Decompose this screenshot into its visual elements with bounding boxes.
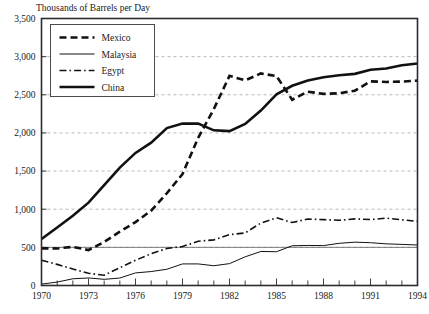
y-axis-label: 2,000 bbox=[14, 128, 36, 138]
chart-title-group: Thousands of Barrels per Day bbox=[36, 3, 150, 13]
legend-label-malaysia: Malaysia bbox=[102, 50, 138, 60]
chart-title: Thousands of Barrels per Day bbox=[36, 3, 150, 13]
y-axis-label: 3,500 bbox=[14, 14, 36, 24]
y-axis-label: 3,000 bbox=[14, 52, 36, 62]
x-axis-label: 1982 bbox=[220, 291, 239, 301]
x-axis-label: 1991 bbox=[361, 291, 380, 301]
x-axis-label: 1979 bbox=[173, 291, 192, 301]
legend-label-china: China bbox=[102, 83, 125, 93]
x-axis-label: 1973 bbox=[79, 291, 98, 301]
x-axis-label: 1988 bbox=[314, 291, 333, 301]
chart-legend: MexicoMalaysiaEgyptChina bbox=[51, 25, 155, 97]
series-line-malaysia bbox=[42, 242, 418, 284]
y-axis-label: 1,000 bbox=[14, 205, 36, 215]
series-line-mexico bbox=[42, 73, 418, 250]
x-axis-tickmarks bbox=[42, 279, 418, 286]
y-axis-tick-labels: 05001,0001,5002,0002,5003,0003,500 bbox=[14, 14, 36, 291]
x-axis-tick-labels: 197019731976197919821985198819911994 bbox=[32, 291, 427, 301]
legend-label-mexico: Mexico bbox=[102, 33, 131, 43]
y-axis-label: 500 bbox=[21, 243, 36, 253]
chart-container: Thousands of Barrels per Day 05001,0001,… bbox=[0, 0, 429, 314]
x-axis-label: 1994 bbox=[408, 291, 427, 301]
y-axis-label: 0 bbox=[31, 281, 36, 291]
legend-label-egypt: Egypt bbox=[102, 66, 125, 76]
line-chart: Thousands of Barrels per Day 05001,0001,… bbox=[0, 0, 429, 314]
x-axis-label: 1976 bbox=[126, 291, 145, 301]
x-axis-label: 1985 bbox=[267, 291, 286, 301]
y-axis-label: 1,500 bbox=[14, 166, 36, 176]
y-axis-label: 2,500 bbox=[14, 90, 36, 100]
x-axis-label: 1970 bbox=[32, 291, 51, 301]
